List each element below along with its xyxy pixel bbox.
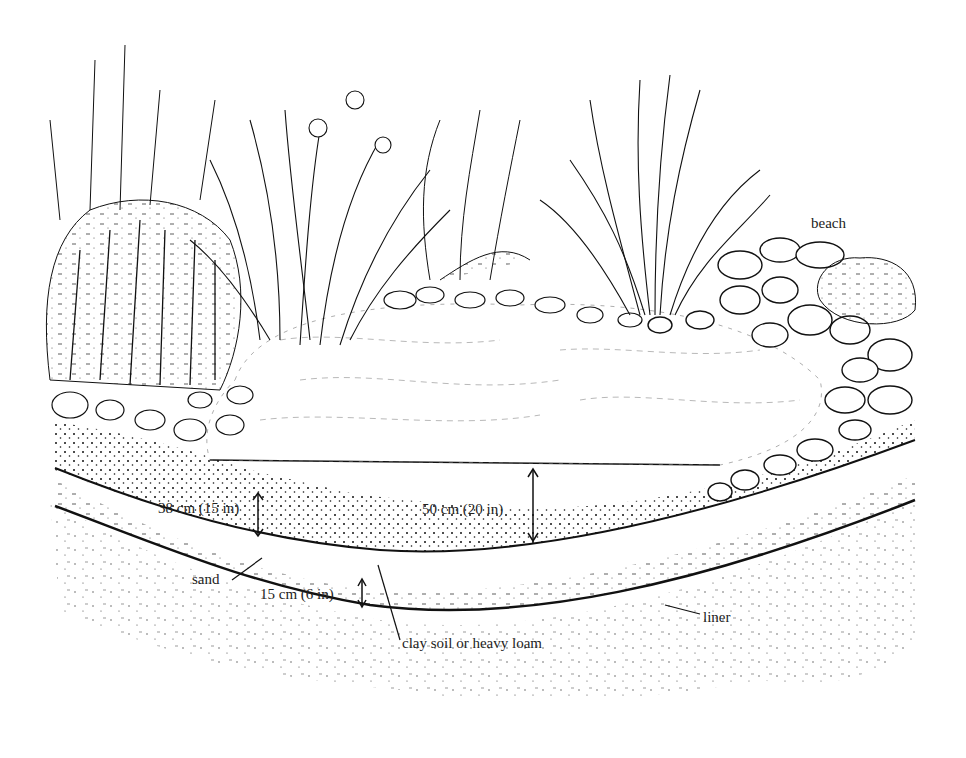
- label-clay-depth: 15 cm (6 in): [260, 587, 334, 602]
- pond-water: [207, 304, 822, 465]
- label-liner: liner: [703, 610, 731, 625]
- label-sand: sand: [192, 572, 220, 587]
- middle-flowering-plant: [423, 110, 530, 280]
- label-water-depth: 50 cm (20 in): [422, 502, 503, 517]
- left-shrub: [46, 45, 241, 390]
- right-shrub: [817, 258, 915, 324]
- label-clay-soil: clay soil or heavy loam: [402, 636, 542, 651]
- back-rocks: [384, 287, 642, 327]
- label-sand-depth: 38 cm (15 in): [158, 501, 239, 516]
- label-beach: beach: [811, 216, 846, 231]
